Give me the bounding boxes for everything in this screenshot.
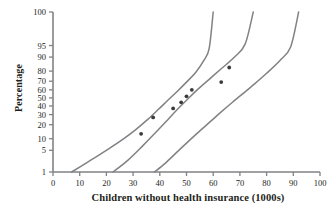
y-tick-label: 100 <box>14 8 46 17</box>
y-tick-label: 1 <box>14 168 46 177</box>
y-axis-title: Percentage <box>13 46 24 130</box>
fitted-curves <box>72 12 299 172</box>
data-point <box>219 80 223 84</box>
x-tick-label: 0 <box>51 179 55 188</box>
x-tick-label: 20 <box>102 179 111 188</box>
x-tick-label: 100 <box>314 179 327 188</box>
data-point <box>171 107 175 111</box>
x-tick-label: 40 <box>156 179 165 188</box>
curve-fitted-curve <box>113 12 253 172</box>
y-tick-label: 5 <box>14 146 46 155</box>
data-point <box>151 116 155 120</box>
x-tick-label: 90 <box>289 179 298 188</box>
data-point <box>227 66 231 70</box>
x-axis-title: Children without health insurance (1000s… <box>54 192 322 203</box>
x-tick-label: 30 <box>129 179 138 188</box>
x-tick-label: 60 <box>209 179 218 188</box>
y-axis-title-wrap: Percentage <box>2 14 16 162</box>
chart-figure: 1510203040506070809095100 01020304050607… <box>0 0 329 214</box>
data-point <box>139 132 143 136</box>
data-point <box>185 94 189 98</box>
x-tick-label: 80 <box>262 179 271 188</box>
x-tick-label: 70 <box>236 179 245 188</box>
data-point <box>190 88 194 92</box>
x-tick-label: 10 <box>75 179 84 188</box>
plot-area <box>0 0 329 214</box>
y-tick-label: 10 <box>14 134 46 143</box>
data-point <box>179 100 183 104</box>
curve-upper-confidence-band <box>72 12 214 172</box>
x-tick-label: 50 <box>182 179 191 188</box>
axes <box>53 12 320 172</box>
